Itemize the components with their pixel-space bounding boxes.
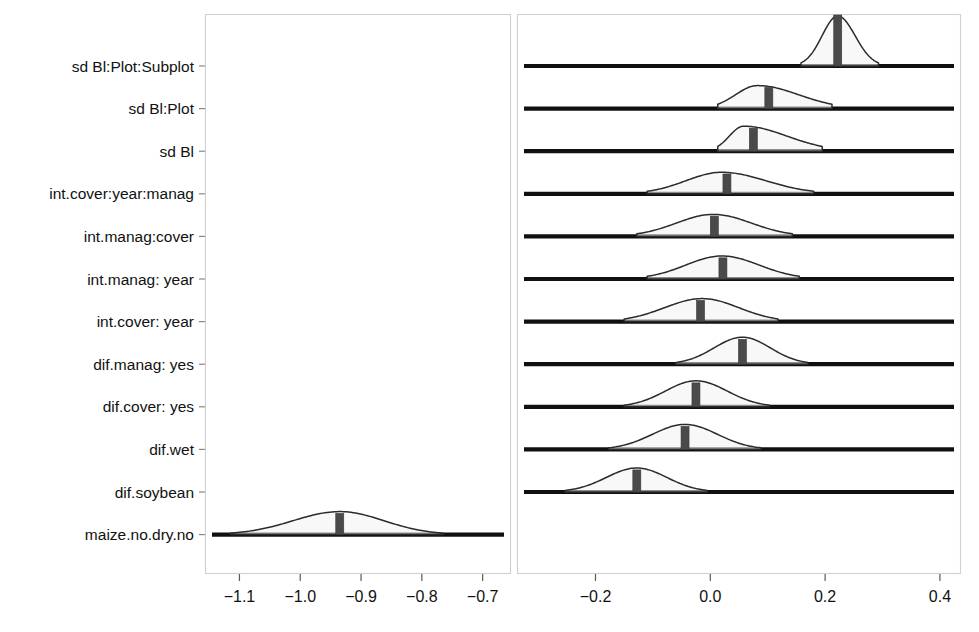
x-axis-tick-label: −1.1	[224, 588, 256, 605]
y-axis-tick-marks	[199, 66, 205, 535]
median-bar	[723, 174, 731, 194]
median-bar	[765, 87, 773, 108]
median-bar	[738, 339, 746, 364]
y-axis-label-4: int.manag:cover	[84, 228, 194, 245]
ridgeline-density-plot: sd Bl:Plot:Subplotsd Bl:Plotsd Blint.cov…	[0, 0, 979, 632]
median-bar	[681, 426, 689, 449]
density-curves	[230, 16, 878, 535]
x-axis-tick-label: 0.4	[929, 588, 951, 605]
y-axis-label-3: int.cover:year:manag	[49, 185, 194, 202]
y-axis-label-8: dif.cover: yes	[103, 398, 195, 415]
x-axis-tick-label: 0.0	[699, 588, 721, 605]
median-bar	[719, 258, 727, 279]
median-bar	[633, 470, 641, 492]
y-axis-label-0: sd Bl:Plot:Subplot	[72, 58, 195, 75]
figure-root: sd Bl:Plot:Subplotsd Bl:Plotsd Blint.cov…	[0, 0, 979, 632]
x-axis-tick-label: −1.0	[284, 588, 316, 605]
y-axis-label-6: int.cover: year	[97, 313, 194, 330]
y-axis-label-1: sd Bl:Plot	[129, 100, 195, 117]
y-axis-label-5: int.manag: year	[87, 271, 194, 288]
x-axis-tick-label: −0.9	[345, 588, 377, 605]
median-bar	[710, 216, 718, 236]
x-axis-tick-label: −0.7	[467, 588, 499, 605]
left-panel-frame	[206, 15, 511, 574]
x-axis-tick-label: 0.2	[814, 588, 836, 605]
y-axis-label-2: sd Bl	[160, 143, 194, 160]
density-curve	[718, 86, 832, 109]
median-bar	[834, 15, 842, 66]
y-axis-label-7: dif.manag: yes	[93, 356, 194, 373]
y-axis-label-11: maize.no.dry.no	[85, 526, 194, 543]
y-axis-labels: sd Bl:Plot:Subplotsd Bl:Plotsd Blint.cov…	[49, 58, 194, 544]
y-axis-label-9: dif.wet	[149, 441, 194, 458]
x-axis-tick-label: −0.8	[406, 588, 438, 605]
density-curve	[718, 126, 822, 151]
row-baselines	[212, 66, 954, 535]
median-bar	[692, 383, 700, 407]
x-axis-tick-marks	[239, 574, 939, 581]
median-bar	[336, 513, 344, 534]
x-axis-tick-label: −0.2	[580, 588, 612, 605]
x-axis-labels: −1.1−1.0−0.9−0.8−0.7−0.20.00.20.4	[224, 588, 951, 605]
y-axis-label-10: dif.soybean	[115, 484, 194, 501]
median-bar	[697, 300, 705, 321]
median-bar	[749, 128, 757, 151]
